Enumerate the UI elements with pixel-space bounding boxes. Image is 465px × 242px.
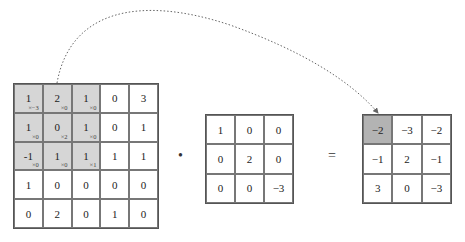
cell-value: 0 <box>276 153 282 165</box>
cell-value: 1 <box>218 124 224 136</box>
kernel-matrix-cell: 0 <box>264 115 293 144</box>
cell-value: 0 <box>112 121 118 133</box>
cell-value: −1 <box>430 153 442 165</box>
cell-value: 1 <box>26 121 32 133</box>
input-matrix-cell: 0 <box>72 199 101 228</box>
output-matrix-cell: 2 <box>392 144 421 173</box>
input-matrix-cell: 0 <box>43 170 72 199</box>
kernel-matrix-cell: 0 <box>235 115 264 144</box>
input-matrix-cell: 1 <box>14 170 43 199</box>
cell-value: 1 <box>26 92 32 104</box>
weight-label: ×0 <box>61 161 68 168</box>
cell-value: 1 <box>26 179 32 191</box>
cell-value: 0 <box>112 92 118 104</box>
cell-value: 1 <box>54 150 60 162</box>
weight-label: ×0 <box>32 161 39 168</box>
cell-value: 0 <box>247 182 253 194</box>
cell-value: 1 <box>112 208 118 220</box>
cell-value: 0 <box>54 179 60 191</box>
input-matrix-cell: 0 <box>129 170 158 199</box>
cell-value: −2 <box>430 124 442 136</box>
cell-value: 1 <box>141 150 147 162</box>
cell-value: 0 <box>112 179 118 191</box>
cell-value: 0 <box>141 208 147 220</box>
input-matrix-cell: 2 <box>43 199 72 228</box>
kernel-matrix-cell: −3 <box>264 174 293 203</box>
cell-value: 1 <box>112 150 118 162</box>
output-matrix-cell: −1 <box>363 144 392 173</box>
cell-value: 1 <box>141 121 147 133</box>
cell-value: 0 <box>83 208 89 220</box>
kernel-matrix-cell: 0 <box>235 174 264 203</box>
output-matrix-cell: 3 <box>363 174 392 203</box>
input-matrix-cell: 0 <box>14 199 43 228</box>
input-matrix-cell: -1×0 <box>14 142 43 171</box>
kernel-matrix-cell: 0 <box>206 144 235 173</box>
kernel-matrix-cell: 2 <box>235 144 264 173</box>
cell-value: 3 <box>141 92 147 104</box>
cell-value: −3 <box>430 182 442 194</box>
cell-value: -1 <box>24 150 33 162</box>
cell-value: 0 <box>276 124 282 136</box>
output-matrix-cell: −2 <box>422 115 451 144</box>
input-matrix-cell: 1 <box>129 113 158 142</box>
input-matrix-cell: 2×0 <box>43 84 72 113</box>
cell-value: −3 <box>401 124 413 136</box>
input-matrix-cell: 0 <box>100 113 129 142</box>
weight-label: ×−3 <box>28 104 39 111</box>
kernel-matrix-cell: 1 <box>206 115 235 144</box>
cell-value: 0 <box>218 182 224 194</box>
cell-value: 3 <box>375 182 381 194</box>
weight-label: ×0 <box>89 104 96 111</box>
cell-value: 0 <box>54 121 60 133</box>
input-matrix-cell: 0 <box>100 170 129 199</box>
input-matrix-cell: 3 <box>129 84 158 113</box>
cell-value: 1 <box>83 121 89 133</box>
kernel-matrix-cell: 0 <box>264 144 293 173</box>
input-matrix-cell: 0 <box>129 199 158 228</box>
input-matrix-cell: 0 <box>100 84 129 113</box>
cell-value: 0 <box>404 182 410 194</box>
cell-value: 1 <box>83 92 89 104</box>
output-matrix-cell: 0 <box>392 174 421 203</box>
output-matrix-cell: −3 <box>392 115 421 144</box>
cell-value: 0 <box>83 179 89 191</box>
kernel-matrix-cell: 0 <box>206 174 235 203</box>
output-matrix: −2−3−2−12−130−3 <box>362 114 452 204</box>
weight-label: ×0 <box>32 133 39 140</box>
input-matrix-cell: 1 <box>100 142 129 171</box>
weight-label: ×0 <box>61 104 68 111</box>
cell-value: 0 <box>218 153 224 165</box>
cell-value: 1 <box>83 150 89 162</box>
cell-value: −1 <box>372 153 384 165</box>
input-matrix-cell: 1×0 <box>14 113 43 142</box>
cell-value: 0 <box>247 124 253 136</box>
input-matrix-cell: 1×0 <box>43 142 72 171</box>
cell-value: −3 <box>273 182 285 194</box>
equals-operator: = <box>328 148 336 164</box>
input-matrix-cell: 1 <box>100 199 129 228</box>
input-matrix-cell: 1×1 <box>72 142 101 171</box>
input-matrix: 1×−32×01×0031×00×21×001-1×01×01×11110000… <box>13 83 159 229</box>
input-matrix-cell: 1×0 <box>72 84 101 113</box>
input-matrix-cell: 1×−3 <box>14 84 43 113</box>
output-matrix-cell: −3 <box>422 174 451 203</box>
input-matrix-cell: 0 <box>72 170 101 199</box>
output-matrix-cell: −2 <box>363 115 392 144</box>
weight-label: ×1 <box>89 161 96 168</box>
input-matrix-cell: 1×0 <box>72 113 101 142</box>
weight-label: ×0 <box>89 133 96 140</box>
output-matrix-cell: −1 <box>422 144 451 173</box>
input-matrix-cell: 1 <box>129 142 158 171</box>
weight-label: ×2 <box>61 133 68 140</box>
cell-value: 2 <box>54 92 60 104</box>
cell-value: 0 <box>141 179 147 191</box>
cell-value: 2 <box>247 153 253 165</box>
multiply-operator: • <box>178 148 183 164</box>
input-matrix-cell: 0×2 <box>43 113 72 142</box>
cell-value: 2 <box>54 208 60 220</box>
cell-value: 0 <box>26 208 32 220</box>
kernel-matrix: 10002000−3 <box>205 114 294 204</box>
cell-value: −2 <box>372 124 384 136</box>
cell-value: 2 <box>404 153 410 165</box>
